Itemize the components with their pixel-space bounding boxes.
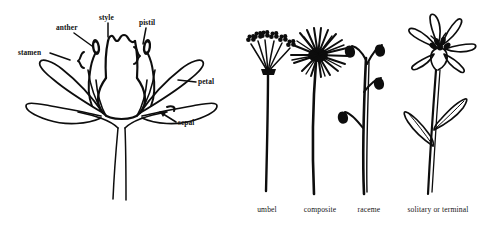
label-pistil: pistil: [139, 18, 155, 27]
label-style: style: [99, 13, 114, 22]
label-sepal: sepal: [178, 118, 195, 127]
label-stamen: stamen: [18, 48, 41, 57]
botanical-illustration: stamen anther style pistil petal sepal: [0, 0, 496, 227]
caption-umbel: umbel: [257, 205, 277, 214]
label-petal: petal: [198, 77, 214, 86]
caption-raceme: raceme: [358, 205, 381, 214]
label-anther: anther: [56, 23, 78, 32]
caption-composite: composite: [304, 205, 337, 214]
caption-solitary: solitary or terminal: [407, 205, 468, 214]
